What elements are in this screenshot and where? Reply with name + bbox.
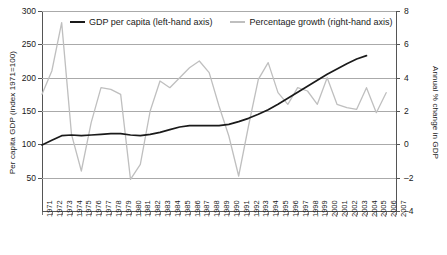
- x-axis-tick-mark: [298, 212, 299, 215]
- right-axis-tick-mark: [396, 78, 400, 79]
- right-axis-tick-label: 6: [404, 39, 430, 49]
- left-axis-tick-label: 250: [10, 39, 36, 49]
- right-axis-tick-label: 0: [404, 139, 430, 149]
- x-axis-tick-mark: [62, 212, 63, 215]
- plot-area: [42, 11, 396, 211]
- x-axis-tick-mark: [268, 212, 269, 215]
- right-axis-tick-label: 8: [404, 6, 430, 16]
- x-axis-tick-mark: [219, 212, 220, 215]
- x-axis-tick-mark: [101, 212, 102, 215]
- x-axis-tick-mark: [121, 212, 122, 215]
- x-axis-tick-mark: [239, 212, 240, 215]
- right-axis-tick-label: 4: [404, 73, 430, 83]
- x-axis-tick-mark: [42, 212, 43, 215]
- left-axis-tick-label: 200: [10, 73, 36, 83]
- legend-label-percentage-growth: Percentage growth (right-hand axis): [249, 17, 392, 27]
- x-axis-tick-mark: [376, 212, 377, 215]
- x-axis-tick-mark: [278, 212, 279, 215]
- right-axis-tick-label: –2: [404, 173, 430, 183]
- x-axis-tick-mark: [249, 212, 250, 215]
- left-axis-tick-label: 300: [10, 6, 36, 16]
- x-axis-tick-mark: [81, 212, 82, 215]
- x-axis-tick-mark: [258, 212, 259, 215]
- x-axis-tick-mark: [190, 212, 191, 215]
- x-axis-tick-mark: [288, 212, 289, 215]
- legend-swatch-dark-icon: [70, 21, 85, 23]
- chart-legend: GDP per capita (left-hand axis) Percenta…: [70, 17, 392, 27]
- right-axis-tick-mark: [396, 44, 400, 45]
- x-axis-tick-mark: [386, 212, 387, 215]
- legend-swatch-grey-icon: [230, 21, 245, 23]
- right-axis-tick-mark: [396, 178, 400, 179]
- x-axis-tick-mark: [150, 212, 151, 215]
- x-axis-tick-mark: [396, 212, 397, 215]
- x-axis-tick-mark: [170, 212, 171, 215]
- left-axis-tick-label: 100: [10, 139, 36, 149]
- chart-container: Per capita GDP (index 1971=100) Annual %…: [0, 0, 447, 255]
- right-axis-tick-mark: [396, 111, 400, 112]
- x-axis-tick-mark: [337, 212, 338, 215]
- x-axis-tick-mark: [111, 212, 112, 215]
- x-axis-tick-mark: [131, 212, 132, 215]
- x-axis-tick-mark: [72, 212, 73, 215]
- x-axis-tick-mark: [317, 212, 318, 215]
- x-axis-tick-mark: [199, 212, 200, 215]
- x-axis-tick-mark: [308, 212, 309, 215]
- right-axis-tick-mark: [396, 11, 400, 12]
- x-axis-tick-mark: [367, 212, 368, 215]
- right-axis-tick-label: 2: [404, 106, 430, 116]
- x-axis-tick-mark: [180, 212, 181, 215]
- legend-entry-percentage-growth: Percentage growth (right-hand axis): [230, 17, 392, 27]
- x-axis-tick-mark: [357, 212, 358, 215]
- right-axis-tick-mark: [396, 144, 400, 145]
- legend-entry-gdp-per-capita: GDP per capita (left-hand axis): [70, 17, 212, 27]
- x-axis-tick-mark: [347, 212, 348, 215]
- x-axis-tick-mark: [91, 212, 92, 215]
- series-line-percentage-growth: [42, 23, 386, 180]
- left-axis-tick-label: 150: [10, 106, 36, 116]
- series-line-gdp-per-capita: [42, 56, 367, 145]
- legend-label-gdp-per-capita: GDP per capita (left-hand axis): [89, 17, 212, 27]
- right-axis-title: Annual % change in GDP: [431, 33, 440, 193]
- x-axis-tick-mark: [327, 212, 328, 215]
- x-axis-tick-mark: [229, 212, 230, 215]
- x-axis-tick-mark: [140, 212, 141, 215]
- left-axis-tick-label: 50: [10, 173, 36, 183]
- x-axis-tick-mark: [209, 212, 210, 215]
- x-axis-tick-mark: [52, 212, 53, 215]
- x-axis-tick-mark: [160, 212, 161, 215]
- x-axis-tick-label: 2007: [399, 200, 408, 217]
